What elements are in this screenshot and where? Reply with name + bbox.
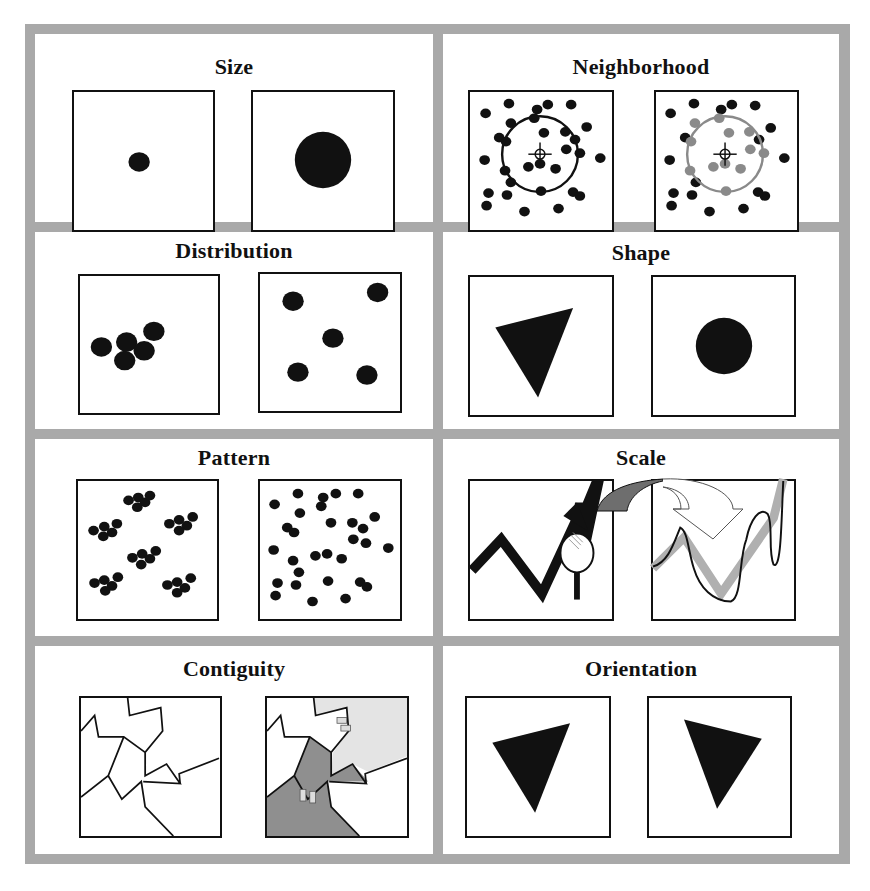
triangle-graphic [470, 277, 612, 415]
rotated-triangle-left-graphic [467, 698, 609, 836]
pattern-random-box [258, 479, 402, 621]
neighborhood-highlighted-graphic [656, 92, 797, 230]
neighborhood-left-box [468, 90, 614, 232]
shape-circle-box [651, 275, 796, 417]
panel-title: Size [35, 54, 433, 80]
circle-graphic [653, 277, 794, 415]
panel-title: Scale [443, 445, 839, 471]
panel-shape: Shape [443, 232, 839, 429]
panel-size: Size [35, 34, 433, 222]
contiguity-boundaries-box [79, 696, 222, 838]
scale-zoom-arrow-graphic [593, 469, 743, 549]
pattern-clustered-box [76, 479, 219, 621]
orientation-right-box [647, 696, 792, 838]
panel-distribution: Distribution [35, 232, 433, 429]
adjacent-regions-graphic [267, 698, 407, 836]
panel-title: Orientation [443, 656, 839, 682]
small-dot-graphic [74, 92, 213, 230]
polygon-boundaries-graphic [81, 698, 220, 836]
size-large-box [251, 90, 395, 232]
panel-title: Shape [443, 240, 839, 266]
panel-title: Contiguity [35, 656, 433, 682]
rotated-triangle-right-graphic [649, 698, 790, 836]
panel-title: Pattern [35, 445, 433, 471]
shape-triangle-box [468, 275, 614, 417]
distribution-clustered-box [78, 274, 220, 415]
panel-pattern: Pattern [35, 439, 433, 636]
orientation-left-box [465, 696, 611, 838]
panel-neighborhood: Neighborhood [443, 34, 839, 222]
panel-orientation: Orientation [443, 646, 839, 854]
contiguity-shaded-box [265, 696, 409, 838]
figure-frame: Size Neighborhood [25, 24, 850, 864]
coarse-zigzag-graphic [470, 481, 612, 619]
panel-title: Distribution [35, 238, 433, 264]
large-dot-graphic [253, 92, 393, 230]
distribution-dispersed-box [258, 272, 402, 413]
dispersed-dots-graphic [260, 274, 400, 411]
neighborhood-right-box [654, 90, 799, 232]
panel-scale: Scale [443, 439, 839, 636]
panel-contiguity: Contiguity [35, 646, 433, 854]
random-points-graphic [260, 481, 400, 619]
size-small-box [72, 90, 215, 232]
clustered-dots-graphic [80, 276, 218, 413]
clustered-groups-graphic [78, 481, 217, 619]
panel-title: Neighborhood [443, 54, 839, 80]
neighborhood-points-graphic [470, 92, 612, 230]
